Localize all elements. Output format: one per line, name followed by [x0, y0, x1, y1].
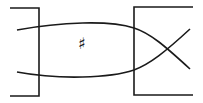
right-bracket [134, 7, 193, 95]
upper-strand [17, 23, 190, 69]
diagram-canvas [0, 0, 203, 103]
lower-strand [17, 29, 190, 77]
sharp-label: ♯ [78, 36, 86, 52]
left-bracket [10, 8, 39, 96]
